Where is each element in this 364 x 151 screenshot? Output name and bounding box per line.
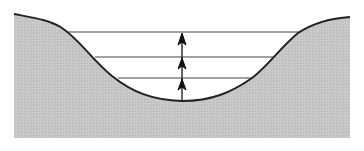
valley-cross-section-diagram [0, 0, 364, 151]
rising-water-arrows [178, 33, 186, 101]
